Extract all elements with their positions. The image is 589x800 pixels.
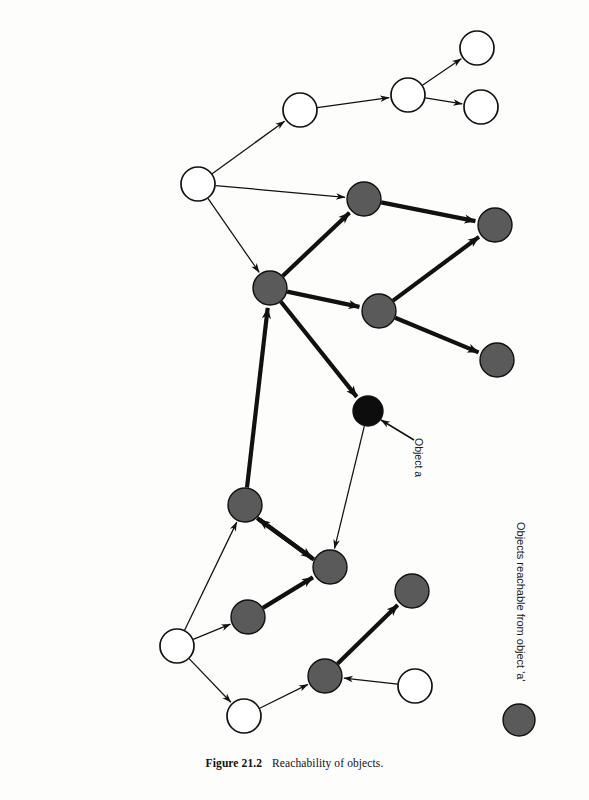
graph-node-reachable — [308, 659, 342, 693]
graph-node-reachable — [347, 182, 381, 216]
graph-edge — [395, 318, 478, 353]
graph-node-unreachable — [398, 669, 432, 703]
graph-node-unreachable — [460, 31, 494, 65]
figure-caption-text: Reachability of objects. — [272, 757, 383, 769]
graph-edge — [263, 577, 313, 607]
graph-edge — [189, 659, 231, 703]
graph-edge — [193, 624, 230, 639]
graph-node-reachable — [313, 550, 347, 584]
graph-node-reachable — [253, 271, 287, 305]
graph-edge — [283, 213, 350, 276]
graph-edge — [381, 202, 475, 221]
node-layer — [160, 31, 514, 733]
graph-edge — [281, 302, 357, 397]
graph-edge — [393, 237, 479, 301]
graph-edge — [247, 308, 268, 488]
legend-swatch-reachable — [503, 704, 535, 736]
graph-node-unreachable — [160, 629, 194, 663]
graph-edge — [215, 186, 345, 198]
graph-edge — [287, 292, 359, 307]
graph-edge — [344, 678, 398, 684]
reachability-graph — [0, 0, 589, 800]
annotation-arrow-layer — [381, 420, 414, 440]
graph-node-unreachable — [464, 90, 498, 124]
object-a-annotation-label: Object a — [413, 438, 425, 477]
object-a-pointer-arrow — [381, 420, 414, 440]
graph-node-reachable — [480, 343, 514, 377]
graph-edge — [260, 684, 308, 708]
graph-edge — [335, 426, 365, 548]
graph-edge — [212, 121, 284, 174]
graph-edge — [425, 98, 462, 104]
graph-node-unreachable — [227, 699, 261, 733]
graph-node-reachable — [478, 208, 512, 242]
graph-edge — [422, 59, 461, 85]
graph-node-reachable — [231, 600, 265, 634]
graph-edge — [185, 522, 237, 630]
graph-edge — [259, 520, 314, 560]
figure-caption: Figure 21.2Reachability of objects. — [0, 757, 589, 769]
figure-caption-number: Figure 21.2 — [206, 757, 262, 769]
graph-node-reachable — [228, 488, 262, 522]
graph-edge — [317, 98, 389, 108]
graph-node-unreachable — [391, 78, 425, 112]
graph-node-unreachable — [283, 93, 317, 127]
graph-node-reachable — [362, 294, 396, 328]
legend-label: Objects reachable from object 'a' — [515, 522, 527, 682]
graph-node-unreachable — [181, 167, 215, 201]
figure-root: Object a Objects reachable from object '… — [0, 0, 589, 800]
edge-layer — [185, 59, 479, 709]
graph-node-object-a — [353, 396, 383, 426]
graph-edge — [338, 605, 398, 664]
graph-edge — [208, 198, 259, 272]
graph-node-reachable — [395, 574, 429, 608]
legend-swatch-layer — [503, 704, 535, 736]
